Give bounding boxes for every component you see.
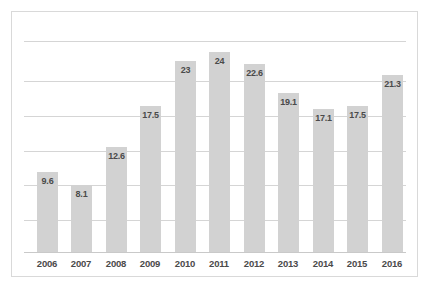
bar-value-label: 8.1 [76,189,88,199]
bar-value-label: 12.6 [108,151,125,161]
bar-value-label: 17.1 [315,113,332,123]
bar-rect [140,106,161,252]
x-axis-labels: 2006 2007 2008 2009 2010 2011 2012 2013 … [24,258,406,276]
bar-rect [382,75,403,252]
bar-rect [347,106,368,252]
bar-rect [106,147,127,252]
chart-frame: 9.6 8.1 12.6 17.5 23 24 [11,11,418,277]
bar-value-label: 22.6 [246,68,263,78]
bar-value-label: 24 [215,56,225,66]
bar-rect [313,109,334,252]
bar-value-label: 9.6 [42,176,54,186]
bar-value-label: 19.1 [280,97,297,107]
bar-value-label: 21.3 [384,79,401,89]
bar-rect [244,64,265,252]
x-tick-2016: 2016 [371,258,413,269]
bar-rect [278,93,299,252]
bars-layer: 9.6 8.1 12.6 17.5 23 24 [24,20,406,253]
bar-rect [175,61,196,252]
bar-value-label: 17.5 [349,110,366,120]
bar-value-label: 17.5 [142,110,159,120]
bar-rect [209,52,230,252]
plot-area: 9.6 8.1 12.6 17.5 23 24 [24,20,406,253]
bar-value-label: 23 [181,65,191,75]
